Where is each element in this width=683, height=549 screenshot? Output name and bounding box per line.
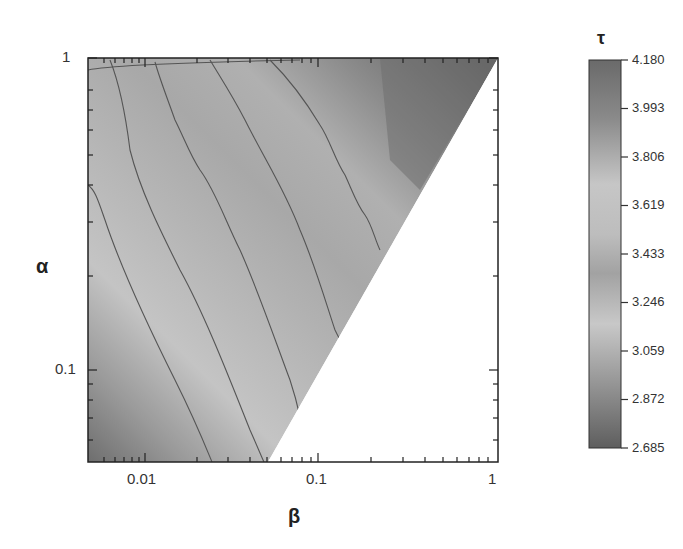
colorbar-label: 3.059 [632,343,665,358]
colorbar-ticks [621,60,628,448]
colorbar-label: 2.872 [632,391,665,406]
colorbar-label: 2.685 [632,440,665,455]
contour-plot [0,0,683,549]
y-tick-label: 0.1 [55,360,76,377]
colorbar-label: 3.619 [632,197,665,212]
y-tick-label: 1 [62,48,70,65]
y-axis-title: α [36,255,48,278]
colorbar-label: 3.433 [632,246,665,261]
colorbar [589,60,621,448]
x-tick-label: 0.01 [127,470,156,487]
colorbar-label: 3.806 [632,149,665,164]
colorbar-label: 3.246 [632,294,665,309]
colorbar-label: 3.993 [632,100,665,115]
x-axis-title: β [288,505,300,528]
x-tick-label: 1 [488,470,496,487]
colorbar-label: 4.180 [632,52,665,67]
colorbar-title: τ [597,28,605,49]
x-tick-label: 0.1 [306,470,327,487]
